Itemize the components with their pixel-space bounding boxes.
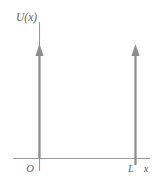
potential-well-figure: U(x) O L x bbox=[0, 0, 158, 183]
potential-well-diagram: U(x) O L x bbox=[0, 0, 158, 183]
origin-label: O bbox=[26, 163, 34, 174]
potential-wall-left-arrowhead bbox=[35, 44, 43, 56]
y-axis-label: U(x) bbox=[16, 11, 37, 24]
potential-wall-left-arrow bbox=[35, 44, 43, 159]
potential-wall-right-arrow bbox=[131, 44, 139, 165]
potential-wall-right-arrowhead bbox=[131, 44, 139, 56]
well-width-label: L bbox=[127, 163, 134, 174]
x-axis-label: x bbox=[143, 163, 149, 174]
